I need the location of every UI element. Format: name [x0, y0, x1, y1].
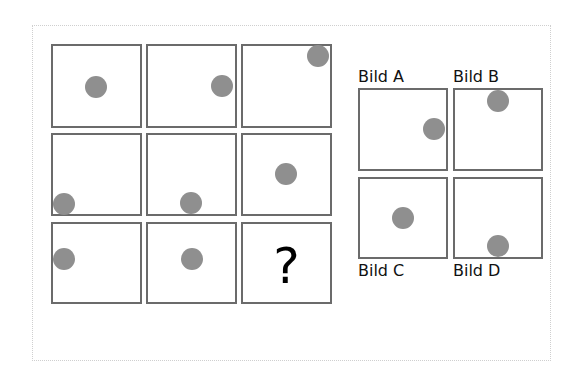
- dot-option-b: [487, 90, 509, 112]
- grid-cell-r3c3-unknown: ?: [241, 222, 332, 304]
- dot-r1c3: [307, 45, 329, 67]
- dot-r2c2: [180, 192, 202, 214]
- question-mark: ?: [243, 224, 330, 302]
- option-label-d: Bild D: [453, 263, 500, 279]
- dot-option-d: [487, 235, 509, 257]
- dot-r1c1: [85, 76, 107, 98]
- dot-r3c2: [181, 248, 203, 270]
- dot-r3c1: [53, 248, 75, 270]
- dot-option-c: [392, 207, 414, 229]
- option-label-b: Bild B: [453, 69, 499, 85]
- dot-r1c2: [211, 75, 233, 97]
- dot-r2c3: [275, 163, 297, 185]
- option-label-c: Bild C: [358, 263, 404, 279]
- dot-r2c1: [53, 193, 75, 215]
- option-label-a: Bild A: [358, 69, 404, 85]
- dot-option-a: [423, 118, 445, 140]
